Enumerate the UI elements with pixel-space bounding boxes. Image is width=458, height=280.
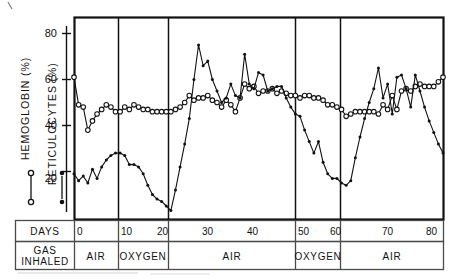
data-point-open [372,109,377,114]
data-point-open [155,109,160,114]
data-point-open [427,84,432,89]
data-point-filled [358,136,361,139]
data-point-filled [114,152,117,155]
data-point-open [335,105,340,110]
data-point-filled [303,129,306,132]
plot-frame [75,18,444,220]
data-point-open [201,96,206,101]
data-point-filled [400,73,403,76]
x-tick-40: 40 [247,226,259,237]
data-point-filled [382,96,385,99]
data-point-open [159,109,164,114]
data-point-filled [335,177,338,180]
data-point-filled [377,67,380,70]
data-point-filled [317,140,320,143]
data-point-filled [211,78,214,81]
data-point-open [293,93,298,98]
data-point-filled [128,163,131,166]
data-point-open [76,103,81,108]
data-point-open [307,93,312,98]
data-point-filled [312,152,315,155]
data-point-filled [165,205,168,208]
data-point-open [358,109,363,114]
y-axis [62,26,71,212]
data-point-open [242,82,247,87]
data-point-open [298,96,303,101]
data-point-open [215,100,220,105]
x-tick-0: 0 [77,226,83,237]
data-point-filled [423,106,426,109]
data-point-filled [197,44,200,47]
data-point-filled [294,113,297,116]
data-point-filled [308,140,311,143]
data-point-filled [119,152,122,155]
x-tick-10: 10 [121,226,133,237]
x-tick-70: 70 [382,226,394,237]
data-point-open [275,91,280,96]
legend-reticulocytes-symbol [60,171,65,205]
data-point-filled [239,96,242,99]
data-point-filled [77,179,80,182]
gas-inhaled-label-line2: INHALED [21,256,69,267]
data-point-open [196,96,201,101]
data-point-filled [156,198,159,201]
data-point-filled [368,101,371,104]
phase-band-air-1: AIR [87,251,106,262]
scan-speck [150,273,210,275]
data-point-open [169,109,174,114]
data-point-filled [132,163,135,166]
data-point-filled [123,154,126,157]
data-point-filled [271,87,274,90]
gas-inhaled-label-line1: GAS [34,245,57,256]
data-point-filled [100,165,103,168]
data-point-open [219,105,224,110]
data-point-open [344,114,349,119]
data-point-open [381,103,386,108]
data-point-open [376,112,381,117]
data-point-open [256,91,261,96]
data-point-filled [109,154,112,157]
data-point-open [385,107,390,112]
data-point-filled [252,87,255,90]
data-point-open [395,107,400,112]
data-point-filled [299,115,302,118]
figure-panel: 80 60 40 20 HEMOGLOBIN (%) RETICULOCYTES… [0,0,458,280]
data-point-filled [174,188,177,191]
data-point-open [431,84,436,89]
data-point-filled [391,113,394,116]
data-point-open [178,105,183,110]
data-point-filled [105,159,108,162]
phase-band-oxygen-2: OXYGEN [295,251,342,262]
data-point-filled [372,87,375,90]
data-point-filled [215,90,218,93]
data-point-open [99,107,104,112]
data-point-filled [322,161,325,164]
data-point-filled [266,90,269,93]
data-point-filled [96,177,99,180]
data-point-filled [345,184,348,187]
data-point-filled [225,96,228,99]
data-point-open [122,105,127,110]
data-point-open [348,112,353,117]
data-point-open [321,98,326,103]
data-point-filled [275,85,278,88]
phase-band-air-3: AIR [383,251,402,262]
data-point-open [146,107,151,112]
data-point-open [436,80,441,85]
data-point-open [339,107,344,112]
data-point-open [192,98,197,103]
data-point-filled [405,87,408,90]
scan-speck [18,272,138,274]
data-point-open [316,96,321,101]
data-point-open [104,103,109,108]
chart-svg: 80 60 40 20 HEMOGLOBIN (%) RETICULOCYTES… [0,0,458,280]
data-point-open [113,109,118,114]
data-point-filled [179,165,182,168]
data-point-filled [437,142,440,145]
data-point-open [288,93,293,98]
data-point-open [86,128,91,133]
data-point-filled [442,152,445,155]
data-point-open [353,109,358,114]
data-point-open [95,112,100,117]
data-point-open [141,107,146,112]
